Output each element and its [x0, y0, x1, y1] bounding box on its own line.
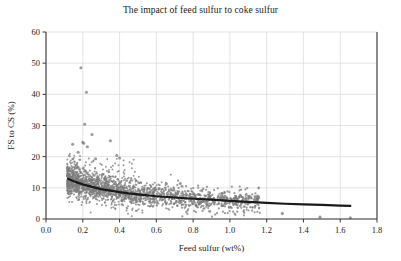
scatter-point — [127, 205, 129, 207]
scatter-point — [89, 164, 91, 166]
scatter-point — [173, 203, 175, 205]
scatter-point — [126, 210, 128, 212]
scatter-point — [173, 189, 175, 191]
scatter-point — [247, 198, 249, 200]
scatter-point — [175, 200, 177, 202]
scatter-point — [168, 188, 170, 190]
scatter-point — [196, 206, 198, 208]
scatter-point — [94, 171, 96, 173]
scatter-point — [124, 169, 126, 171]
scatter-point — [66, 168, 68, 170]
y-tick-label: 60 — [32, 27, 41, 37]
scatter-point — [113, 183, 115, 185]
chart-figure: The impact of feed sulfur to coke sulfur… — [0, 0, 401, 261]
scatter-point — [240, 207, 242, 209]
y-tick-label: 30 — [32, 121, 41, 131]
scatter-point — [251, 206, 253, 208]
scatter-point — [66, 187, 68, 189]
scatter-point — [161, 198, 163, 200]
scatter-point — [91, 190, 93, 192]
scatter-point — [185, 194, 187, 196]
scatter-point — [150, 184, 152, 186]
scatter-point — [97, 177, 99, 179]
scatter-point — [244, 188, 246, 190]
scatter-point — [141, 212, 143, 214]
scatter-point — [133, 159, 135, 161]
scatter-point — [179, 202, 181, 204]
x-tick-label: 0.2 — [77, 225, 88, 235]
scatter-point — [217, 197, 219, 199]
scatter-point — [213, 189, 215, 191]
scatter-point — [109, 187, 111, 189]
scatter-point — [229, 197, 231, 199]
scatter-point — [145, 184, 147, 186]
scatter-point — [66, 185, 68, 187]
scatter-point — [79, 66, 82, 69]
scatter-point — [221, 194, 223, 196]
scatter-point — [185, 206, 187, 208]
scatter-point — [142, 201, 144, 203]
scatter-point — [80, 179, 82, 181]
scatter-point — [228, 191, 230, 193]
scatter-point — [129, 198, 131, 200]
scatter-point — [124, 186, 126, 188]
scatter-point — [75, 176, 77, 178]
scatter-point — [104, 184, 106, 186]
scatter-point — [196, 194, 198, 196]
scatter-point — [81, 181, 83, 183]
scatter-point — [120, 181, 122, 183]
scatter-point — [118, 156, 121, 159]
scatter-point — [141, 209, 143, 211]
scatter-point — [164, 187, 166, 189]
scatter-point — [82, 196, 84, 198]
scatter-point — [198, 194, 200, 196]
scatter-point — [133, 197, 135, 199]
scatter-point — [167, 208, 169, 210]
y-axis-title: FS to CS (%) — [6, 101, 16, 149]
scatter-point — [187, 190, 189, 192]
scatter-point — [71, 143, 74, 146]
scatter-point — [92, 174, 94, 176]
scatter-point — [80, 172, 82, 174]
scatter-point — [99, 163, 101, 165]
scatter-point — [73, 191, 75, 193]
scatter-point — [224, 192, 226, 194]
scatter-point — [121, 177, 123, 179]
scatter-point — [79, 155, 81, 157]
scatter-point — [90, 195, 92, 197]
scatter-point — [249, 206, 251, 208]
x-axis-title: Feed sulfur (wt%) — [179, 243, 244, 253]
scatter-point — [113, 180, 115, 182]
scatter-point — [152, 191, 154, 193]
scatter-point — [67, 183, 69, 185]
scatter-point — [238, 189, 240, 191]
scatter-point — [114, 163, 116, 165]
scatter-point — [94, 157, 97, 160]
scatter-point — [84, 188, 86, 190]
scatter-point — [128, 177, 130, 179]
scatter-point — [69, 171, 71, 173]
scatter-point — [214, 213, 216, 215]
scatter-point — [135, 191, 137, 193]
scatter-point — [161, 191, 163, 193]
scatter-point — [234, 214, 236, 216]
scatter-point — [76, 197, 78, 199]
scatter-point — [143, 197, 145, 199]
scatter-point — [131, 202, 133, 204]
scatter-point — [190, 190, 192, 192]
scatter-point — [112, 200, 114, 202]
scatter-point — [70, 165, 72, 167]
scatter-point — [162, 188, 164, 190]
scatter-point — [211, 216, 213, 218]
scatter-point — [254, 197, 256, 199]
scatter-point — [85, 195, 87, 197]
scatter-point — [83, 174, 85, 176]
scatter-point — [224, 194, 226, 196]
scatter-point — [197, 187, 199, 189]
scatter-point — [98, 184, 100, 186]
scatter-point — [154, 187, 156, 189]
scatter-point — [124, 184, 126, 186]
scatter-point — [318, 216, 321, 219]
scatter-point — [66, 172, 68, 174]
scatter-point — [146, 182, 148, 184]
